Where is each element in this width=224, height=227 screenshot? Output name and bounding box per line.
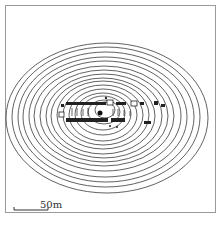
- scale-label: 50m: [40, 199, 62, 210]
- central-feature-dot: [98, 111, 103, 116]
- caption: [0, 216, 224, 227]
- contour-map: [0, 0, 224, 227]
